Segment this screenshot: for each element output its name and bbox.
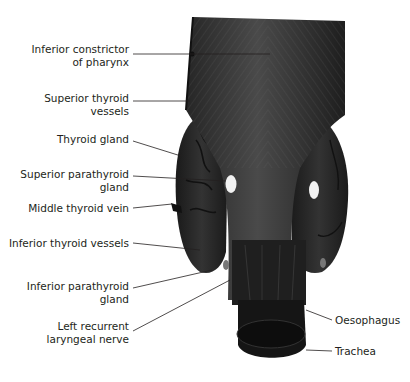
label-superior-parathyroid: Superior parathyroid gland [20,168,129,194]
label-middle-thyroid-vein: Middle thyroid vein [28,202,129,215]
label-thyroid-gland: Thyroid gland [57,133,129,146]
label-inferior-thyroid-vessels: Inferior thyroid vessels [9,237,129,250]
inferior-parathyroid-right [320,258,326,268]
label-inferior-parathyroid: Inferior parathyroid gland [27,280,129,306]
anatomy-figure: Inferior constrictor of pharynx Superior… [0,0,410,382]
label-trachea: Trachea [335,345,376,358]
label-left-recurrent-laryngeal-nerve: Left recurrent laryngeal nerve [47,320,129,346]
superior-parathyroid-right [309,181,319,199]
label-oesophagus: Oesophagus [335,314,400,327]
label-inferior-constrictor: Inferior constrictor of pharynx [31,43,129,69]
label-superior-thyroid-vessels: Superior thyroid vessels [44,92,129,118]
superior-parathyroid-left [226,175,237,193]
oesophagus-structure [232,240,306,305]
inferior-parathyroid-left [223,260,229,270]
trachea-structure [237,300,306,358]
